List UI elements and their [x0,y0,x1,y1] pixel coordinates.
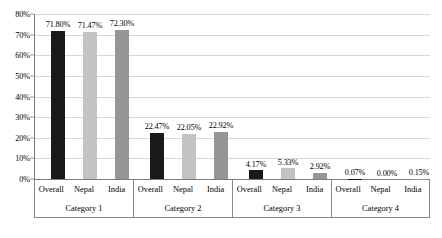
category-cell: Overall Nepal India Category 4 [332,180,429,218]
category-name: Category 3 [233,199,331,218]
category-name: Category 4 [332,199,429,218]
y-tick-label: 80% [15,10,30,19]
y-tick-label: 60% [15,51,30,60]
y-tick-label: 70% [15,30,30,39]
series-name-row: Overall Nepal India [134,180,232,199]
y-tick-label: 10% [15,154,30,163]
y-tick-label: 50% [15,71,30,80]
bar-overall-category-1 [51,31,65,179]
series-name-nepal: Nepal [167,180,200,199]
bar-chart: 80% 70% 60% 50% 40% 30% 20% 10% 0% 71.80… [0,0,442,238]
y-tick-label: 30% [15,113,30,122]
series-name-overall: Overall [35,180,68,199]
series-name-overall: Overall [134,180,167,199]
series-name-nepal: Nepal [266,180,299,199]
y-tick-label: 0% [19,175,30,184]
y-tick-label: 20% [15,133,30,142]
category-name: Category 2 [134,199,232,218]
series-name-row: Overall Nepal India [233,180,331,199]
series-name-nepal: Nepal [364,180,396,199]
series-name-india: India [199,180,232,199]
series-name-india: India [397,180,429,199]
bar-group: 71.80%71.47%72.30% [35,14,134,179]
bar-india-category-2 [214,132,228,179]
bar-group: 0.07%0.00%0.15% [332,14,430,179]
y-axis: 80% 70% 60% 50% 40% 30% 20% 10% 0% [0,14,34,180]
bar-india-category-3 [313,173,327,179]
bar-value-label: 0.15% [397,168,441,177]
bar-overall-category-2 [150,133,164,179]
category-label-block: Overall Nepal India Category 1 Overall N… [34,180,430,218]
category-cell: Overall Nepal India Category 2 [134,180,232,218]
category-cell: Overall Nepal India Category 1 [35,180,133,218]
bar-group: 22.47%22.05%22.92% [134,14,233,179]
bar-overall-category-3 [249,170,263,179]
series-name-india: India [298,180,331,199]
series-name-row: Overall Nepal India [332,180,429,199]
category-name: Category 1 [35,199,133,218]
series-name-india: India [100,180,133,199]
bar-india-category-1 [115,30,129,179]
bar-nepal-category-1 [83,32,97,179]
series-name-row: Overall Nepal India [35,180,133,199]
y-tick-label: 40% [15,92,30,101]
category-cell: Overall Nepal India Category 3 [233,180,331,218]
plot-area: 71.80%71.47%72.30% 22.47%22.05%22.92% 4.… [34,14,430,180]
series-name-overall: Overall [233,180,266,199]
bar-group: 4.17%5.33%2.92% [233,14,332,179]
bar-nepal-category-2 [182,134,196,179]
series-name-nepal: Nepal [68,180,101,199]
series-name-overall: Overall [332,180,364,199]
bar-nepal-category-3 [281,168,295,179]
